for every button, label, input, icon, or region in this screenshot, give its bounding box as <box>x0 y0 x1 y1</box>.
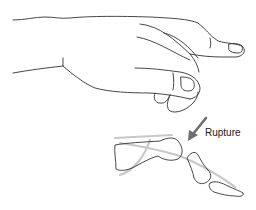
rupture-label: Rupture <box>205 127 241 138</box>
illustration-canvas <box>0 0 256 210</box>
finger-bones <box>115 138 243 196</box>
mallet-finger-illustration: Rupture <box>0 0 256 210</box>
rupture-arrow-icon <box>188 118 206 141</box>
hand-drawing <box>13 16 244 112</box>
